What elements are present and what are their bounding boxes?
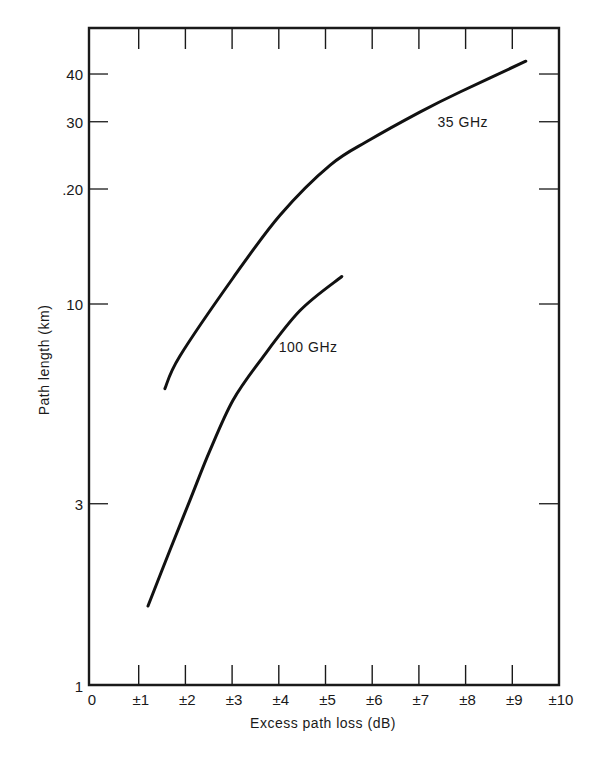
x-axis-title: Excess path loss (dB) xyxy=(250,715,396,731)
y-tick-label: 40 xyxy=(66,66,83,83)
x-tick-label: ±7 xyxy=(413,691,430,708)
series-label-35-ghz: 35 GHz xyxy=(438,114,488,130)
x-tick-label: ±2 xyxy=(179,691,196,708)
x-tick-label: 0 xyxy=(88,691,96,708)
x-tick-label: ±5 xyxy=(319,691,336,708)
x-tick-label: ±3 xyxy=(226,691,243,708)
series-line-100-ghz xyxy=(148,277,342,607)
series-group: 35 GHz100 GHz xyxy=(148,61,526,606)
y-tick-label: 3 xyxy=(75,496,83,513)
x-tick-label: ±9 xyxy=(506,691,523,708)
x-tick-label: ±6 xyxy=(366,691,383,708)
plot-border xyxy=(89,28,559,685)
y-tick-label: 10 xyxy=(66,296,83,313)
series-label-100-ghz: 100 GHz xyxy=(279,339,338,355)
y-axis-title: Path length (km) xyxy=(36,305,52,416)
y-tick-label: .20 xyxy=(62,181,83,198)
chart: 0±1±2±3±4±5±6±7±8±9±10 1310.203040 35 GH… xyxy=(0,0,603,761)
x-tick-label: ±8 xyxy=(459,691,476,708)
y-axis-ticks: 1310.203040 xyxy=(62,66,559,695)
x-tick-label: ±1 xyxy=(132,691,149,708)
series-line-35-ghz xyxy=(165,61,526,389)
x-tick-label: ±10 xyxy=(549,691,574,708)
x-axis-ticks: 0±1±2±3±4±5±6±7±8±9±10 xyxy=(88,28,574,708)
y-tick-label: 30 xyxy=(66,114,83,131)
x-tick-label: ±4 xyxy=(273,691,290,708)
plot-frame xyxy=(89,28,559,685)
y-tick-label: 1 xyxy=(75,678,83,695)
